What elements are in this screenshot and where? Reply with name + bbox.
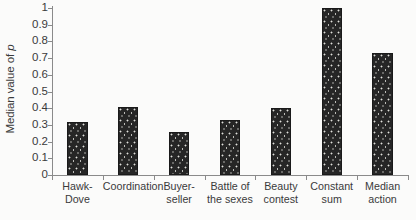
bar <box>169 132 189 175</box>
bar <box>271 108 291 175</box>
x-axis-category-label-line2: sum <box>306 193 357 206</box>
bar <box>372 53 392 175</box>
y-axis-title-text: Median value of p <box>4 44 16 133</box>
x-axis-category-label-line2: action <box>357 193 408 206</box>
x-axis-category-label: Constantsum <box>306 180 357 206</box>
x-axis-category-label: Coordination <box>103 180 154 193</box>
y-axis-tick-label: 0.6 <box>32 69 48 81</box>
y-axis-title-prefix: Median value of <box>4 51 16 134</box>
y-axis-tick-mark <box>48 58 52 59</box>
y-axis-tick-label: 0.2 <box>32 136 48 148</box>
bar <box>220 120 240 175</box>
plot-area <box>52 8 408 175</box>
x-axis-category-label: Buyer-seller <box>154 180 205 206</box>
x-axis-category-label-line1: Hawk- <box>62 180 92 192</box>
x-axis-category-label-line2: the sexes <box>205 193 256 206</box>
y-axis-tick-mark <box>48 41 52 42</box>
y-axis-tick-mark <box>48 125 52 126</box>
y-axis-tick-labels: 00.10.20.30.40.50.60.70.80.91 <box>18 0 48 178</box>
y-axis-tick-label: 0.4 <box>32 102 48 114</box>
bar <box>67 122 87 175</box>
y-axis-line <box>52 6 53 175</box>
x-axis-category-label: Beautycontest <box>255 180 306 206</box>
x-axis-category-label-line2: contest <box>255 193 306 206</box>
x-axis-category-label-line1: Buyer- <box>163 180 194 192</box>
y-axis-tick-mark <box>48 158 52 159</box>
bar <box>322 8 342 175</box>
y-axis-tick-mark <box>48 142 52 143</box>
bar <box>118 107 138 175</box>
x-axis-category-label: Hawk-Dove <box>52 180 103 206</box>
x-axis-category-label-line2: Dove <box>52 193 103 206</box>
y-axis-tick-label: 0.9 <box>32 19 48 31</box>
bar-chart: Median value of p 00.10.20.30.40.50.60.7… <box>0 0 416 220</box>
y-axis-tick-mark <box>48 75 52 76</box>
y-axis-tick-label: 0.7 <box>32 52 48 64</box>
y-axis-tick-mark <box>48 25 52 26</box>
x-axis-category-label-line1: Median <box>365 180 400 192</box>
x-axis-category-label-line1: Constant <box>310 180 353 192</box>
y-axis-tick-mark <box>48 92 52 93</box>
y-axis-tick-mark <box>48 8 52 9</box>
y-axis-title: Median value of p <box>0 0 20 178</box>
y-axis-tick-label: 0.1 <box>32 153 48 165</box>
x-axis-tick-mark <box>408 175 409 180</box>
x-axis-line <box>52 175 408 176</box>
y-axis-tick-label: 0.8 <box>32 36 48 48</box>
y-axis-tick-label: 0.3 <box>32 119 48 131</box>
y-axis-title-symbol: p <box>4 44 16 50</box>
y-axis-tick-mark <box>48 108 52 109</box>
x-axis-category-label-line1: Beauty <box>264 180 297 192</box>
x-axis-category-label: Medianaction <box>357 180 408 206</box>
x-axis-category-labels: Hawk-DoveCoordinationBuyer-sellerBattle … <box>52 180 408 218</box>
x-axis-category-label-line1: Battle of <box>210 180 249 192</box>
y-axis-tick-label: 0.5 <box>32 86 48 98</box>
x-axis-category-label: Battle ofthe sexes <box>205 180 256 206</box>
x-axis-category-label-line2: seller <box>154 193 205 206</box>
